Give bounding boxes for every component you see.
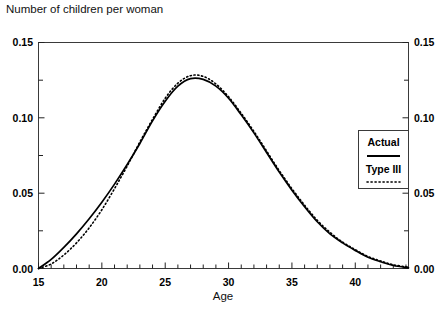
y-axis-left-label-3: 0.00 — [13, 263, 34, 275]
chart-figure: Number of children per woman 0.15 0.10 0… — [0, 0, 447, 312]
x-axis-tick-label: 25 — [159, 276, 171, 288]
y-axis-left-label-1: 0.10 — [13, 112, 34, 124]
y-axis-right-label-1: 0.10 — [414, 112, 435, 124]
y-axis-left-label-0: 0.15 — [13, 36, 34, 48]
x-axis-tick-label: 35 — [286, 276, 298, 288]
y-axis-right-label-0: 0.15 — [414, 36, 435, 48]
x-axis-tick-label: 15 — [33, 276, 45, 288]
x-axis-tick-label: 30 — [223, 276, 235, 288]
chart-legend: Actual Type III — [359, 131, 409, 189]
chart-plot-area: 0.15 0.10 0.05 0.00 0.15 0.10 0.05 0.00 … — [0, 0, 447, 312]
legend-label-actual: Actual — [367, 136, 399, 148]
x-axis-tick-label: 40 — [349, 276, 361, 288]
x-axis — [39, 263, 406, 269]
plot-frame — [39, 43, 409, 269]
x-axis-tick-label: 20 — [96, 276, 108, 288]
x-axis-title: Age — [213, 290, 233, 302]
legend-label-type-iii: Type III — [366, 163, 401, 175]
y-axis-left-label-2: 0.05 — [13, 187, 34, 199]
y-axis-left: 0.15 0.10 0.05 0.00 — [13, 36, 45, 275]
y-axis-right-label-3: 0.00 — [414, 263, 435, 275]
y-axis-right-label-2: 0.05 — [414, 187, 435, 199]
series-line-actual — [39, 78, 409, 268]
x-axis-tick-labels: 152025303540 — [33, 276, 362, 288]
series-line-type-iii — [39, 75, 409, 268]
